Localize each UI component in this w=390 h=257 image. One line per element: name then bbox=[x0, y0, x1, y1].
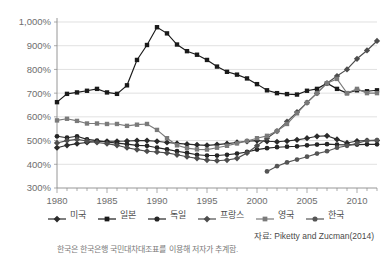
data-point bbox=[315, 91, 319, 95]
legend-marker-icon bbox=[255, 210, 275, 220]
data-point bbox=[275, 145, 280, 150]
data-point bbox=[154, 138, 160, 144]
data-point bbox=[274, 139, 280, 145]
legend-label: 한국 bbox=[328, 208, 344, 221]
data-point bbox=[285, 122, 289, 126]
svg-text:400%: 400% bbox=[27, 159, 52, 170]
legend-label: 독일 bbox=[170, 208, 186, 221]
data-point bbox=[235, 72, 239, 76]
legend-marker-icon bbox=[47, 210, 67, 220]
source-text: 자료: Piketty and Zucman(2014) bbox=[254, 229, 374, 241]
data-point bbox=[65, 92, 69, 96]
plot-area: 300%400%500%600%700%800%900%1,000% 19801… bbox=[0, 0, 390, 210]
data-point bbox=[275, 129, 279, 133]
x-axis: 1980198519901995200020052010 bbox=[46, 188, 377, 206]
data-point bbox=[205, 147, 209, 151]
legend-item-독일[interactable]: 독일 bbox=[147, 208, 186, 221]
data-point bbox=[195, 53, 199, 57]
data-point bbox=[245, 76, 249, 80]
svg-text:1985: 1985 bbox=[96, 195, 117, 206]
data-point bbox=[314, 133, 320, 139]
data-point bbox=[255, 136, 259, 140]
svg-text:1990: 1990 bbox=[146, 195, 167, 206]
data-point bbox=[155, 128, 159, 132]
data-point bbox=[144, 137, 150, 143]
data-point bbox=[285, 144, 290, 149]
data-point bbox=[305, 89, 309, 93]
data-point bbox=[265, 146, 270, 151]
data-point bbox=[335, 87, 339, 91]
data-point bbox=[345, 143, 350, 148]
legend-item-한국[interactable]: 한국 bbox=[305, 208, 344, 221]
legend-marker-icon bbox=[197, 210, 217, 220]
data-point bbox=[75, 90, 79, 94]
data-point bbox=[205, 58, 209, 62]
note-text: 한국은 한국은행 국민대차대조표를 이용해 저자가 추계함. bbox=[57, 243, 238, 254]
legend-item-프랑스[interactable]: 프랑스 bbox=[197, 208, 244, 221]
data-point bbox=[265, 169, 270, 174]
legend-label: 프랑스 bbox=[220, 208, 244, 221]
line-chart-svg: 300%400%500%600%700%800%900%1,000% 19801… bbox=[0, 0, 390, 210]
legend-marker-icon bbox=[147, 210, 167, 220]
legend-label: 일본 bbox=[120, 208, 136, 221]
data-point bbox=[105, 122, 109, 126]
data-point bbox=[155, 25, 159, 29]
svg-text:900%: 900% bbox=[27, 40, 52, 51]
legend-item-일본[interactable]: 일본 bbox=[97, 208, 136, 221]
data-point bbox=[85, 121, 89, 125]
data-point bbox=[195, 147, 199, 151]
data-point bbox=[295, 92, 299, 96]
data-point bbox=[335, 77, 339, 81]
data-point bbox=[125, 83, 129, 87]
data-point bbox=[315, 142, 320, 147]
data-point bbox=[174, 152, 180, 158]
svg-text:800%: 800% bbox=[27, 64, 52, 75]
legend-marker-icon bbox=[305, 210, 325, 220]
data-point bbox=[164, 150, 170, 156]
data-point bbox=[215, 153, 220, 158]
legend-item-영국[interactable]: 영국 bbox=[255, 208, 294, 221]
data-point bbox=[215, 145, 219, 149]
data-point bbox=[214, 158, 220, 164]
data-point bbox=[134, 137, 140, 143]
data-point bbox=[134, 146, 140, 152]
data-point bbox=[194, 155, 200, 161]
data-point bbox=[234, 155, 240, 161]
data-point bbox=[95, 121, 99, 125]
series-한국 bbox=[265, 138, 380, 174]
data-point bbox=[275, 164, 280, 169]
data-point bbox=[124, 145, 130, 151]
svg-text:300%: 300% bbox=[27, 182, 52, 193]
data-point bbox=[295, 144, 300, 149]
data-point bbox=[55, 134, 60, 139]
data-point bbox=[325, 149, 330, 154]
data-point bbox=[255, 82, 259, 86]
data-point bbox=[375, 142, 380, 147]
data-point bbox=[105, 90, 109, 94]
data-point bbox=[85, 89, 89, 93]
data-point bbox=[295, 111, 299, 115]
data-point bbox=[284, 138, 290, 144]
data-point bbox=[295, 157, 300, 162]
data-point bbox=[95, 87, 99, 91]
data-point bbox=[265, 134, 269, 138]
data-point bbox=[145, 43, 149, 47]
data-point bbox=[325, 81, 329, 85]
data-point bbox=[185, 146, 189, 150]
svg-text:2000: 2000 bbox=[246, 195, 267, 206]
data-point bbox=[225, 70, 229, 74]
legend-label: 영국 bbox=[278, 208, 294, 221]
svg-text:1980: 1980 bbox=[46, 195, 67, 206]
svg-text:700%: 700% bbox=[27, 88, 52, 99]
svg-text:600%: 600% bbox=[27, 111, 52, 122]
svg-text:2010: 2010 bbox=[346, 195, 367, 206]
data-point bbox=[185, 49, 189, 53]
series-일본 bbox=[55, 25, 379, 104]
data-point bbox=[294, 137, 300, 143]
legend-item-미국[interactable]: 미국 bbox=[47, 208, 86, 221]
data-point bbox=[355, 87, 359, 91]
data-point bbox=[215, 64, 219, 68]
data-series-layer bbox=[54, 25, 380, 174]
data-point bbox=[375, 138, 380, 143]
data-point bbox=[324, 133, 330, 139]
